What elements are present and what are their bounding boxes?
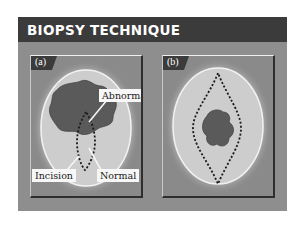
label-abnormal: Abnormal (99, 89, 143, 102)
label-incision: Incision (32, 169, 76, 182)
lesion (203, 110, 234, 146)
panel-a-tag: (a) (31, 56, 57, 70)
panel-b-illustration (163, 56, 273, 196)
panel-b: (b) (162, 55, 275, 198)
figure-title: BIOPSY TECHNIQUE (27, 22, 180, 38)
biopsy-figure: BIOPSY TECHNIQUE (a) Abnormal Incision N… (18, 17, 287, 211)
figure-header: BIOPSY TECHNIQUE (18, 17, 287, 42)
panel-a: (a) Abnormal Incision Normal (30, 55, 143, 198)
panel-a-tag-label: (a) (35, 56, 46, 67)
label-normal: Normal (97, 169, 139, 182)
panel-b-tag: (b) (163, 56, 189, 70)
panel-b-tag-label: (b) (167, 56, 179, 67)
